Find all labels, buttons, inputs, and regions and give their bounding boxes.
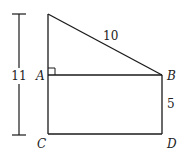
point-b-label: B: [166, 69, 176, 83]
height-label: 11: [11, 69, 26, 83]
bd-length-label: 5: [167, 97, 175, 111]
rectangle-abdc: [48, 75, 162, 134]
geometry-diagram: 11 10 A B C D 5: [0, 0, 186, 157]
right-triangle: [48, 14, 162, 75]
point-c-label: C: [37, 137, 46, 151]
right-angle-marker: [48, 68, 55, 75]
point-a-label: A: [35, 69, 45, 83]
figure: 11 10 A B C D 5: [0, 0, 186, 157]
point-d-label: D: [166, 137, 177, 151]
hypotenuse-label: 10: [103, 29, 118, 43]
